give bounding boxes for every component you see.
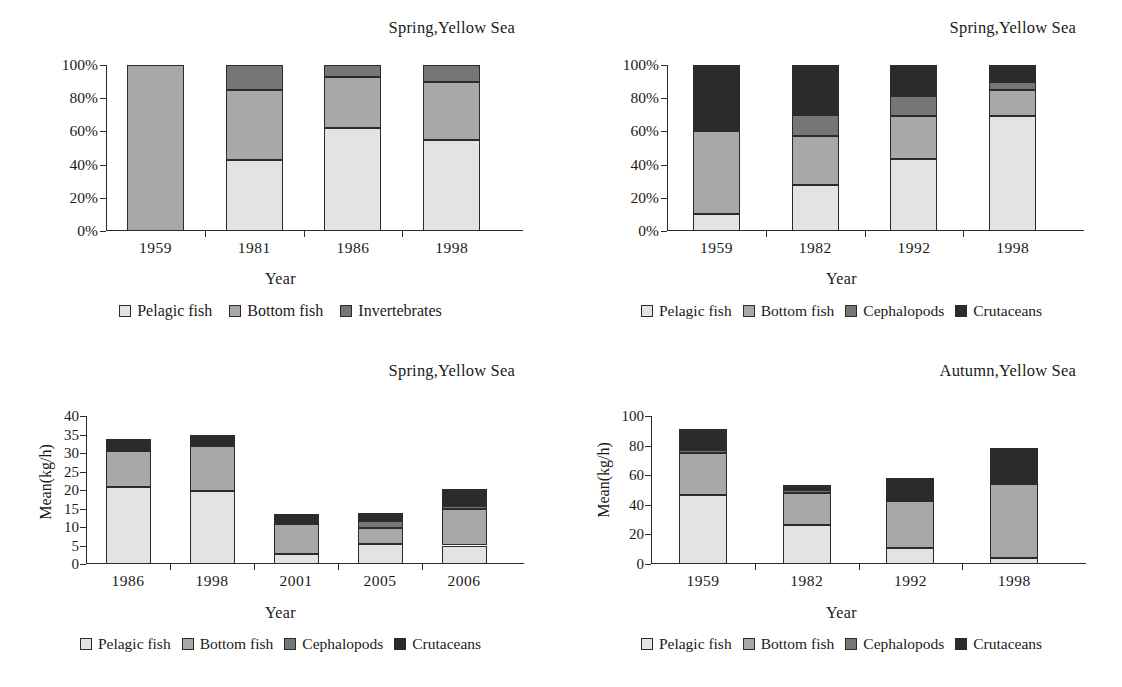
y-axis-tick-label: 0 <box>72 556 80 573</box>
y-axis-tick <box>80 509 86 510</box>
y-axis-tick-label: 100 <box>622 408 645 425</box>
legend-label: Crutaceans <box>973 302 1042 320</box>
y-axis-tick-label: 0% <box>638 222 659 240</box>
legend-swatch-icon <box>955 305 967 317</box>
bar-segment <box>324 77 381 128</box>
x-axis-tick <box>338 564 339 570</box>
legend-swatch-icon <box>80 638 92 650</box>
bar-segment <box>989 90 1036 116</box>
y-axis-tick <box>645 534 651 535</box>
stacked-bar <box>274 514 319 564</box>
y-axis-tick-label: 25 <box>64 463 79 480</box>
legend-swatch-icon <box>284 638 296 650</box>
legend-swatch-icon <box>743 638 755 650</box>
yaxis-title-bottom-left: Mean(kg/h) <box>37 407 55 557</box>
xaxis-title-top-left: Year <box>0 270 561 288</box>
bar-segment <box>693 131 740 214</box>
x-axis-tick <box>422 564 423 570</box>
yaxis-title-bottom-right: Mean(kg/h) <box>595 405 613 555</box>
figure-grid: Spring,Yellow Sea 0%20%40%60%80%100%1959… <box>0 0 1122 687</box>
x-axis-tick <box>766 231 767 237</box>
legend-item: Pelagic fish <box>641 635 732 653</box>
legend-swatch-icon <box>955 638 967 650</box>
y-axis-tick <box>80 453 86 454</box>
y-axis-tick <box>645 416 651 417</box>
y-axis-tick-label: 80% <box>70 89 98 107</box>
panel-bottom-left: Spring,Yellow Sea Mean(kg/h) 05101520253… <box>0 347 561 687</box>
y-axis-tick <box>661 198 667 199</box>
y-axis-tick <box>100 65 106 66</box>
legend-label: Bottom fish <box>761 302 835 320</box>
bar-segment <box>358 521 403 529</box>
y-axis-tick-label: 40 <box>629 496 644 513</box>
bar-segment <box>442 489 487 505</box>
legend-item: Cephalopods <box>284 635 383 653</box>
legend-swatch-icon <box>743 305 755 317</box>
legend-item: Pelagic fish <box>119 302 212 320</box>
legend-swatch-icon <box>394 638 406 650</box>
bar-segment <box>442 546 487 565</box>
bar-segment <box>792 185 839 231</box>
bar-segment <box>990 448 1038 484</box>
stacked-bar <box>442 489 487 564</box>
panel-title-top-right: Spring,Yellow Sea <box>950 18 1076 38</box>
legend-label: Invertebrates <box>358 302 442 320</box>
y-axis-tick <box>100 165 106 166</box>
xaxis-title-bottom-right: Year <box>561 604 1122 622</box>
stacked-bar <box>890 65 937 231</box>
x-axis-tick-label: 1998 <box>435 239 468 257</box>
x-axis-tick-label: 1982 <box>790 572 823 590</box>
legend-swatch-icon <box>340 305 352 317</box>
legend-label: Pelagic fish <box>137 302 212 320</box>
panel-title-bottom-left: Spring,Yellow Sea <box>389 361 515 381</box>
x-axis-tick <box>170 564 171 570</box>
y-axis-tick-label: 60% <box>631 122 659 140</box>
legend-top-left: Pelagic fishBottom fishInvertebrates <box>0 302 561 320</box>
y-axis-tick-label: 10 <box>64 519 79 536</box>
legend-swatch-icon <box>641 305 653 317</box>
legend-label: Pelagic fish <box>98 635 171 653</box>
y-axis-tick <box>80 527 86 528</box>
legend-label: Bottom fish <box>761 635 835 653</box>
legend-item: Pelagic fish <box>641 302 732 320</box>
stacked-bar <box>106 439 151 564</box>
x-axis-tick-label: 1998 <box>196 572 229 590</box>
stacked-bar <box>679 429 727 564</box>
stacked-bar <box>693 65 740 231</box>
legend-label: Pelagic fish <box>659 302 732 320</box>
y-axis-tick-label: 35 <box>64 426 79 443</box>
legend-bottom-right: Pelagic fishBottom fishCephalopodsCrutac… <box>561 635 1122 653</box>
y-axis-tick <box>645 505 651 506</box>
bar-segment <box>442 509 487 545</box>
bar-segment <box>792 136 839 185</box>
x-axis-tick <box>402 231 403 237</box>
bar-segment <box>890 159 937 231</box>
bar-segment <box>106 439 151 449</box>
legend-swatch-icon <box>119 305 131 317</box>
legend-item: Bottom fish <box>743 635 835 653</box>
legend-label: Crutaceans <box>412 635 481 653</box>
bar-segment <box>358 528 403 543</box>
y-axis-tick-label: 30 <box>64 445 79 462</box>
y-axis-tick-label: 100% <box>62 56 98 74</box>
legend-item: Bottom fish <box>182 635 274 653</box>
bar-segment <box>358 513 403 521</box>
stacked-bar <box>324 65 381 231</box>
bar-segment <box>106 487 151 564</box>
x-axis-tick-label: 1959 <box>139 239 172 257</box>
y-axis-tick-label: 80% <box>631 89 659 107</box>
legend-label: Crutaceans <box>973 635 1042 653</box>
bar-segment <box>886 501 934 548</box>
bar-segment <box>324 128 381 231</box>
plot-area-top-left: 0%20%40%60%80%100%1959198119861998 <box>106 65 501 231</box>
bar-segment <box>274 524 319 554</box>
bar-segment <box>989 116 1036 231</box>
bar-segment <box>679 429 727 450</box>
x-axis-tick-label: 1986 <box>336 239 369 257</box>
y-axis-tick <box>100 198 106 199</box>
y-axis-tick <box>100 98 106 99</box>
y-axis-tick-label: 100% <box>623 56 659 74</box>
bar-segment <box>226 160 283 231</box>
panel-top-right: Spring,Yellow Sea 0%20%40%60%80%100%1959… <box>561 0 1122 347</box>
legend-item: Crutaceans <box>955 635 1042 653</box>
